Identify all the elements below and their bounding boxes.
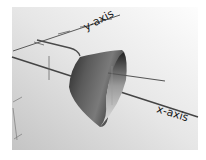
3d-figure: y-axis x-axis: [0, 0, 206, 160]
3d-plot-canvas: y-axis x-axis: [0, 0, 206, 160]
